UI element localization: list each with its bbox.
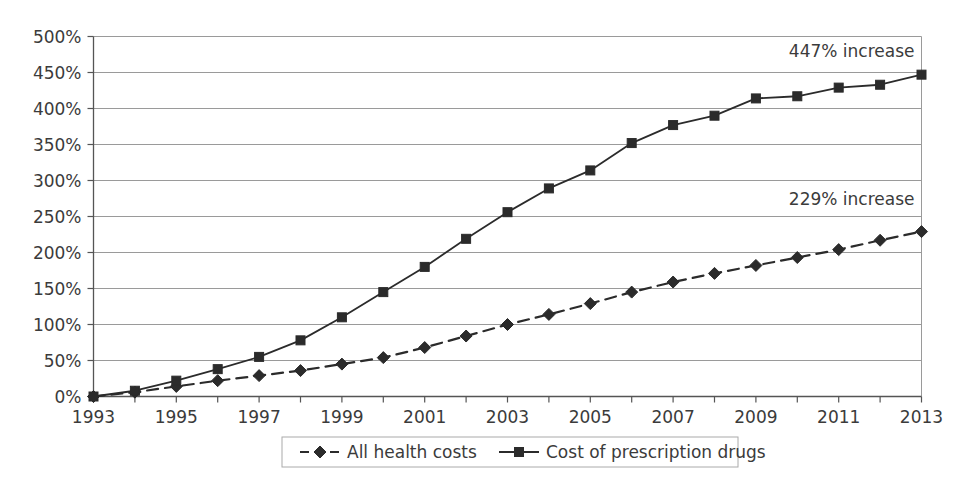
y-axis-tick-label: 350% (33, 135, 82, 155)
y-axis-tick-label: 500% (33, 27, 82, 47)
x-axis-tick-label: 1999 (320, 407, 363, 427)
y-axis-tick-label: 150% (33, 279, 82, 299)
data-point-square-marker (515, 448, 524, 457)
data-point-square-marker (503, 208, 512, 217)
data-point-square-marker (876, 80, 885, 89)
data-point-square-marker (462, 234, 471, 243)
legend-item-label: Cost of prescription drugs (546, 442, 766, 462)
data-point-square-marker (420, 262, 429, 271)
x-axis-ticks (94, 397, 922, 403)
x-axis-tick-label: 1995 (155, 407, 198, 427)
data-point-square-marker (172, 376, 181, 385)
x-axis-tick-label: 2011 (817, 407, 860, 427)
y-axis-tick-label: 100% (33, 315, 82, 335)
data-point-square-marker (751, 94, 760, 103)
data-point-square-marker (130, 386, 139, 395)
data-point-square-marker (379, 288, 388, 297)
x-axis-tick-label: 2007 (651, 407, 694, 427)
data-point-square-marker (544, 184, 553, 193)
y-axis-tick-label: 450% (33, 63, 82, 83)
chart-annotation: 229% increase (789, 189, 915, 209)
data-point-square-marker (213, 365, 222, 374)
data-point-square-marker (793, 92, 802, 101)
data-point-square-marker (89, 392, 98, 401)
data-point-square-marker (255, 352, 264, 361)
y-axis-tick-label: 300% (33, 171, 82, 191)
y-axis-tick-label: 0% (55, 387, 82, 407)
chart-background (0, 0, 955, 488)
x-axis-tick-label: 1997 (237, 407, 280, 427)
data-point-square-marker (627, 139, 636, 148)
data-point-square-marker (834, 83, 843, 92)
x-axis-tick-label: 2009 (734, 407, 777, 427)
legend-item-label: All health costs (347, 442, 477, 462)
data-point-square-marker (296, 336, 305, 345)
y-axis-tick-label: 50% (44, 351, 82, 371)
x-axis-tick-label: 2005 (569, 407, 612, 427)
chart-annotation: 447% increase (789, 41, 915, 61)
x-axis-tick-label: 1993 (72, 407, 115, 427)
x-axis-tick-label: 2013 (900, 407, 943, 427)
data-point-square-marker (669, 121, 678, 130)
y-axis-tick-label: 200% (33, 243, 82, 263)
data-point-square-marker (917, 70, 926, 79)
data-point-square-marker (710, 111, 719, 120)
chart-container: 0%50%100%150%200%250%300%350%400%450%500… (0, 0, 955, 488)
data-point-square-marker (337, 313, 346, 322)
data-point-square-marker (586, 166, 595, 175)
x-axis-tick-label: 2003 (486, 407, 529, 427)
y-axis-tick-label: 250% (33, 207, 82, 227)
chart-legend: All health costsCost of prescription dru… (282, 437, 766, 467)
x-axis-tick-label: 2001 (403, 407, 446, 427)
y-axis-tick-label: 400% (33, 99, 82, 119)
line-chart: 0%50%100%150%200%250%300%350%400%450%500… (0, 0, 955, 488)
